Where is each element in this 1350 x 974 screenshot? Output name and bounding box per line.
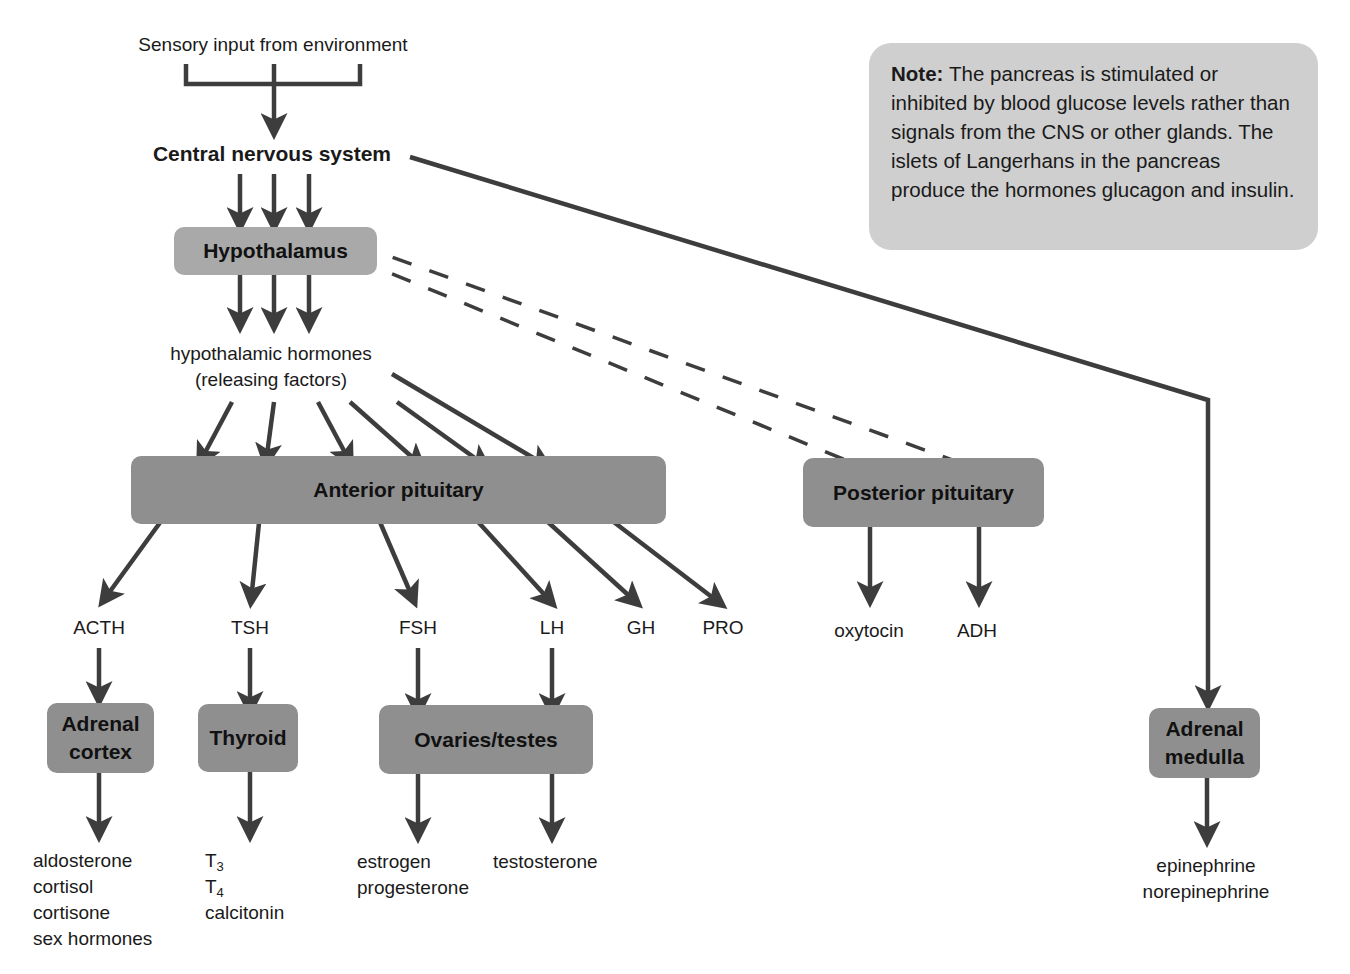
hypothalamus-label: Hypothalamus <box>203 237 348 265</box>
adrenal-cortex-line1: Adrenal <box>61 710 139 738</box>
product-item: sex hormones <box>33 926 152 952</box>
hypothalamic-hormones-line2: (releasing factors) <box>170 367 372 393</box>
note-text: The pancreas is stimulated or inhibited … <box>891 62 1294 201</box>
adrenal-medulla-box: Adrenal medulla <box>1149 708 1260 778</box>
product-item: cortisone <box>33 900 152 926</box>
sensory-input-label: Sensory input from environment <box>138 32 407 58</box>
hormone-acth: ACTH <box>73 615 125 641</box>
hormone-adh: ADH <box>957 618 997 644</box>
neurosecretory-path-upper <box>356 244 980 470</box>
neurosecretory-path-lower <box>356 259 870 470</box>
thyroid-box: Thyroid <box>198 704 298 772</box>
product-item: progesterone <box>357 875 469 901</box>
hormone-pro: PRO <box>702 615 743 641</box>
pancreas-note: Note: The pancreas is stimulated or inhi… <box>869 43 1318 250</box>
adrenal-medulla-line2: medulla <box>1165 743 1244 771</box>
hormone-gh: GH <box>627 615 656 641</box>
posterior-pituitary-label: Posterior pituitary <box>833 479 1014 507</box>
anterior-pituitary-label: Anterior pituitary <box>313 476 483 504</box>
product-item-calcitonin: calcitonin <box>205 900 284 926</box>
hypothalamic-hormones-line1: hypothalamic hormones <box>170 341 372 367</box>
hypothalamus-box: Hypothalamus <box>174 227 377 275</box>
hormone-fsh: FSH <box>399 615 437 641</box>
product-item-t4: T4 <box>205 874 284 900</box>
product-item: norepinephrine <box>1143 879 1270 905</box>
product-item-t3: T3 <box>205 848 284 874</box>
thyroid-label: Thyroid <box>210 724 287 752</box>
hormone-lh: LH <box>540 615 564 641</box>
anterior-pituitary-box: Anterior pituitary <box>131 456 666 524</box>
product-item: aldosterone <box>33 848 152 874</box>
ovaries-testes-label: Ovaries/testes <box>414 726 558 754</box>
product-item: epinephrine <box>1143 853 1270 879</box>
adrenal-medulla-products: epinephrine norepinephrine <box>1143 853 1270 905</box>
product-item: cortisol <box>33 874 152 900</box>
hormone-oxytocin: oxytocin <box>834 618 904 644</box>
product-item: estrogen <box>357 849 469 875</box>
note-title: Note: <box>891 62 949 85</box>
ovary-products: estrogen progesterone <box>357 849 469 901</box>
adrenal-cortex-box: Adrenal cortex <box>47 703 154 773</box>
adrenal-cortex-products: aldosterone cortisol cortisone sex hormo… <box>33 848 152 952</box>
testes-products: testosterone <box>493 849 598 875</box>
cns-label: Central nervous system <box>153 141 391 167</box>
product-item: testosterone <box>493 849 598 875</box>
adrenal-cortex-line2: cortex <box>69 738 132 766</box>
thyroid-products: T3 T4 calcitonin <box>205 848 284 926</box>
ovaries-testes-box: Ovaries/testes <box>379 705 593 774</box>
hypothalamic-hormones-label: hypothalamic hormones (releasing factors… <box>170 341 372 393</box>
posterior-pituitary-box: Posterior pituitary <box>803 458 1044 527</box>
hormone-tsh: TSH <box>231 615 269 641</box>
adrenal-medulla-line1: Adrenal <box>1165 715 1243 743</box>
